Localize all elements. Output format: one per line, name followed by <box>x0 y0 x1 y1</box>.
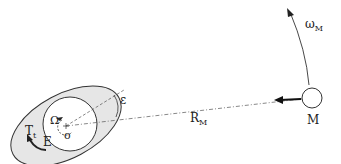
moon-orbit-arrow-icon <box>287 8 294 17</box>
earth-moon-tidal-diagram: ωM M RM ε Ω E o Tt <box>0 0 341 164</box>
omega-moon-label: ωM <box>305 17 323 33</box>
moon-label: M <box>307 113 319 127</box>
epsilon-label: ε <box>120 93 126 107</box>
moon-force-arrow-icon <box>274 96 283 104</box>
distance-label: RM <box>190 111 207 127</box>
moon-force-line <box>280 99 301 100</box>
earth-label: E <box>43 135 52 149</box>
earth-rotation-label: Ω <box>50 114 59 127</box>
center-label: o <box>64 129 71 142</box>
moon-circle <box>302 88 322 108</box>
